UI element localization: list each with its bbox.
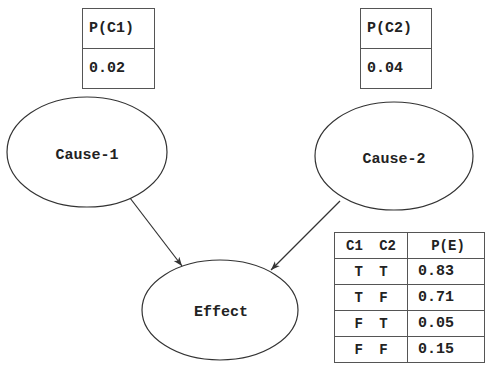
- cpt-row-causes: T T: [335, 259, 408, 285]
- cpt-row-causes: F T: [335, 311, 408, 337]
- cpt-row-prob: 0.83: [408, 259, 485, 285]
- cpt-row-causes: F F: [335, 337, 408, 363]
- prior-c1-header: P(C1): [83, 9, 155, 49]
- prior-c2-value: 0.04: [361, 49, 432, 89]
- prior-c1-value: 0.02: [83, 49, 155, 89]
- cpt-header-causes: C1 C2: [335, 233, 408, 259]
- cpt-header-prob: P(E): [408, 233, 485, 259]
- cpt-row: F F 0.15: [335, 337, 485, 363]
- cpt-row-prob: 0.71: [408, 285, 485, 311]
- node-effect-label: Effect: [194, 304, 248, 321]
- edge-cause-1-to-effect: [130, 198, 182, 266]
- prior-table-c2: P(C2) 0.04: [360, 8, 432, 89]
- cpt-row-causes: T F: [335, 285, 408, 311]
- node-cause-1-label: Cause-1: [55, 147, 118, 164]
- node-cause-2-label: Cause-2: [362, 151, 425, 168]
- cpt-table-effect: C1 C2 P(E) T T 0.83 T F 0.71 F T 0.05 F …: [334, 232, 485, 363]
- prior-table-c1: P(C1) 0.02: [82, 8, 155, 89]
- cpt-row-prob: 0.05: [408, 311, 485, 337]
- cpt-row: T F 0.71: [335, 285, 485, 311]
- cpt-row-prob: 0.15: [408, 337, 485, 363]
- edge-cause-2-to-effect: [271, 201, 340, 270]
- cpt-row: T T 0.83: [335, 259, 485, 285]
- cpt-row: F T 0.05: [335, 311, 485, 337]
- cpt-header-row: C1 C2 P(E): [335, 233, 485, 259]
- prior-c2-header: P(C2): [361, 9, 432, 49]
